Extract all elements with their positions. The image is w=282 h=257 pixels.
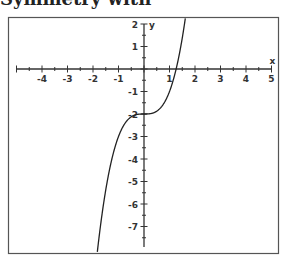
x-axis-label: x — [270, 56, 276, 66]
y-tick-label: -7 — [128, 222, 138, 232]
y-tick-label: -4 — [128, 155, 138, 165]
x-tick-label: 1 — [166, 74, 172, 84]
y-tick-label: -1 — [128, 87, 138, 97]
function-curve — [97, 18, 185, 252]
y-tick-label: 2 — [132, 20, 138, 30]
x-tick-label: -2 — [88, 74, 98, 84]
x-tick-label: -4 — [37, 74, 47, 84]
y-tick-label: -6 — [128, 200, 138, 210]
x-tick-label: -1 — [114, 74, 124, 84]
y-tick-label: 1 — [132, 42, 138, 52]
x-tick-label: 4 — [243, 74, 249, 84]
function-graph: -4-3-2-11234521-1-2-3-4-5-6-7 x y — [0, 0, 282, 257]
y-axis-label: y — [149, 20, 155, 30]
y-tick-label: -3 — [128, 132, 138, 142]
x-tick-label: -3 — [63, 74, 73, 84]
tick-labels: -4-3-2-11234521-1-2-3-4-5-6-7 — [37, 20, 275, 233]
x-tick-label: 2 — [192, 74, 198, 84]
x-tick-label: 5 — [268, 74, 274, 84]
x-tick-label: 3 — [217, 74, 223, 84]
y-tick-label: -5 — [128, 177, 138, 187]
